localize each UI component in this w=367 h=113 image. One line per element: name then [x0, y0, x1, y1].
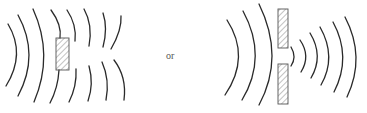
wavefront: [67, 10, 75, 41]
wavefront: [51, 10, 60, 38]
wavefront: [6, 24, 17, 86]
wavefront: [333, 22, 343, 92]
wavefront: [18, 15, 29, 96]
wavefront: [345, 17, 356, 97]
wavefront: [320, 27, 329, 85]
bottom-barrier: [278, 64, 288, 104]
wavefront: [291, 47, 294, 66]
wavefront: [102, 62, 107, 100]
wavefront: [300, 40, 306, 72]
wavefront: [225, 20, 239, 95]
obstacle-block: [56, 38, 69, 70]
wavefront: [114, 60, 125, 100]
right-panel-slit-diffraction: [225, 4, 356, 105]
wavefront: [259, 4, 272, 105]
wavefront: [242, 11, 255, 100]
wavefront: [69, 69, 76, 102]
wavefront: [88, 66, 91, 101]
wavefront: [50, 70, 59, 103]
wavefront: [111, 16, 121, 49]
wavefront: [103, 13, 106, 47]
wavefront: [84, 9, 90, 46]
wavefront: [33, 9, 44, 102]
top-barrier: [278, 9, 288, 48]
or-separator-label: or: [166, 50, 174, 61]
diffraction-diagram: [0, 0, 367, 113]
wavefront: [310, 33, 317, 78]
